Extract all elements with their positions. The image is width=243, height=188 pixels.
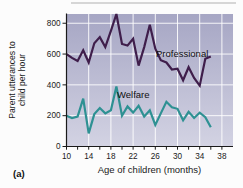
y-axis-label: Parent utterances to child per hour bbox=[7, 41, 28, 118]
y-axis-label-line2: child per hour bbox=[17, 41, 27, 118]
x-axis-label: Age of children (months) bbox=[66, 164, 233, 175]
y-tick-label: 0 bbox=[56, 142, 61, 151]
y-tick-label: 400 bbox=[47, 81, 61, 90]
figure-panel: 10141822263034380200400600800 Parent utt… bbox=[0, 0, 243, 188]
y-tick-label: 800 bbox=[47, 19, 61, 28]
x-tick-label: 26 bbox=[151, 152, 161, 161]
x-tick-label: 10 bbox=[62, 152, 72, 161]
y-tick-label: 600 bbox=[47, 50, 61, 59]
x-tick-label: 14 bbox=[84, 152, 94, 161]
y-axis-label-line1: Parent utterances to bbox=[7, 41, 17, 118]
x-tick-label: 30 bbox=[173, 152, 183, 161]
series-label-professional: Professional bbox=[156, 48, 208, 59]
x-tick-label: 34 bbox=[195, 152, 205, 161]
y-tick-label: 200 bbox=[47, 111, 61, 120]
panel-label: (a) bbox=[13, 168, 25, 179]
series-label-welfare: Welfare bbox=[117, 89, 150, 100]
x-tick-label: 38 bbox=[217, 152, 227, 161]
x-tick-label: 22 bbox=[129, 152, 139, 161]
x-tick-label: 18 bbox=[106, 152, 116, 161]
